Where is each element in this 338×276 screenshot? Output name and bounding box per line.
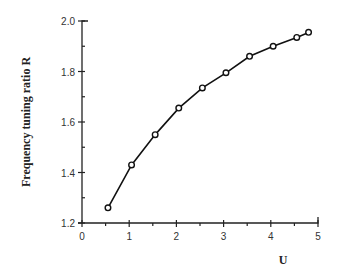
data-point-marker	[129, 162, 135, 168]
data-point-marker	[176, 105, 182, 111]
data-point-marker	[152, 132, 158, 138]
chart: 1.21.41.61.82.0012345 U Frequency tuning…	[0, 0, 338, 276]
data-point-marker	[270, 43, 276, 49]
y-tick-label: 2.0	[61, 16, 75, 27]
x-tick-label: 1	[126, 231, 132, 242]
x-tick-label: 2	[174, 231, 180, 242]
data-series	[105, 30, 311, 211]
y-tick-label: 1.2	[61, 218, 75, 229]
x-tick-label: 0	[79, 231, 85, 242]
y-tick-label: 1.8	[61, 67, 75, 78]
data-point-marker	[200, 85, 206, 91]
series-line	[108, 32, 309, 207]
axes: 1.21.41.61.82.0012345	[61, 16, 321, 242]
y-tick-label: 1.4	[61, 168, 75, 179]
x-axis-title: U	[279, 253, 288, 267]
x-axis-line	[78, 217, 318, 223]
data-point-marker	[294, 35, 300, 41]
data-point-marker	[105, 205, 111, 211]
x-tick-label: 5	[315, 231, 321, 242]
y-tick-label: 1.6	[61, 117, 75, 128]
x-tick-label: 3	[221, 231, 227, 242]
x-tick-label: 4	[268, 231, 274, 242]
data-point-marker	[306, 30, 312, 36]
data-point-marker	[223, 70, 229, 76]
data-point-marker	[247, 54, 253, 60]
y-axis-title: Frequency tuning ratio R	[19, 57, 33, 187]
